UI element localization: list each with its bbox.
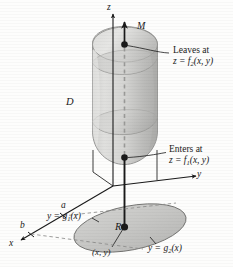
annotation-leaves-line2: z = f2(x, y) [173,56,213,68]
label-curve-g2-rhs: (x) [171,243,182,253]
annotation-leaves-rhs: (x, y) [194,56,214,66]
point-xy-marker [121,223,128,230]
label-curve-g1: y = g1(x) [47,211,81,223]
label-mark-b: b [20,220,25,230]
annotation-enters: Enters at z = f1(x, y) [169,144,209,167]
annotation-leaves: Leaves at z = f2(x, y) [173,45,213,68]
support-to-origin [93,172,113,186]
annotation-enters-rhs: (x, y) [190,155,210,165]
annotation-enters-lhs: z = f [169,155,187,165]
label-solid-d: D [66,96,74,107]
enters-point-marker [121,154,128,161]
label-curve-g2: y = g2(x) [148,243,182,255]
label-region-r: R [115,221,121,232]
annotation-enters-line1: Enters at [169,144,209,154]
figure-root: z y x M D R (x, y) a b Leaves at z = f2(… [0,0,233,267]
label-point-xy: (x, y) [92,248,110,258]
annotation-leaves-lhs: z = f [173,56,191,66]
axis-label-y: y [197,169,201,179]
label-curve-g1-rhs: (x) [70,211,81,221]
label-mark-a: a [61,200,66,210]
label-curve-g2-lhs: y = g [148,243,168,253]
label-curve-g1-lhs: y = g [47,211,67,221]
annotation-enters-line2: z = f1(x, y) [169,155,209,167]
label-line-m: M [137,21,145,32]
leaves-point-marker [121,41,128,48]
annotation-leaves-line1: Leaves at [173,45,213,55]
axis-label-x: x [9,238,13,248]
axis-label-z: z [107,2,111,12]
